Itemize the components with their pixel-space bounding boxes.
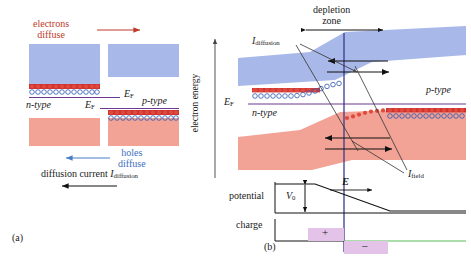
- conduction-band-b: [238, 26, 466, 86]
- panel-b-caption: (b): [264, 242, 276, 253]
- potential-plot-axes: [275, 182, 466, 213]
- electrons-diffuse-line2: diffuse: [37, 29, 65, 40]
- p-type-label-b: p-type: [426, 85, 451, 96]
- p-type-conduction-band-a: [108, 44, 179, 77]
- p-type-electron-row-a: [108, 110, 179, 115]
- charge-plot-axes: [275, 219, 466, 241]
- charge-axis-label: charge: [236, 220, 262, 231]
- fermi-label-b: EF: [224, 97, 234, 108]
- electron-energy-axis-label: electron energy: [191, 74, 201, 133]
- n-type-electron-row-a: [29, 84, 100, 89]
- i-field-label: Ifield: [408, 169, 424, 180]
- positive-charge-label: +: [322, 227, 328, 239]
- e-field-label: E: [342, 176, 349, 187]
- depletion-zone-line2: zone: [322, 15, 341, 26]
- diffusion-current-label: diffusion current Idiffusion: [41, 169, 138, 180]
- p-type-valence-band-a: [108, 118, 179, 146]
- n-type-label-a: n-type: [26, 100, 51, 111]
- n-side-electron-row-b: [252, 88, 320, 92]
- holes-diffuse-label: holes diffuse: [118, 148, 146, 169]
- n-type-label-b: n-type: [252, 108, 277, 119]
- fermi-label-n-a: EF: [124, 89, 134, 100]
- electrons-diffuse-label: electrons diffuse: [33, 19, 69, 40]
- n-type-conduction-band-a: [29, 44, 100, 84]
- fermi-label-p-a: EF: [85, 100, 95, 111]
- panel-a-graphic: [29, 30, 179, 186]
- i-diffusion-label: Idiffusion: [252, 36, 280, 47]
- pn-junction-figure: electrons diffuse holes diffuse n-type p…: [0, 0, 471, 264]
- electrons-diffuse-line1: electrons: [33, 18, 69, 29]
- p-type-label-a: p-type: [142, 96, 167, 107]
- holes-diffuse-line1: holes: [121, 147, 142, 158]
- negative-charge-label: –: [362, 240, 368, 252]
- potential-axis-label: potential: [229, 191, 264, 202]
- n-type-hole-row-a: [30, 90, 100, 95]
- panel-a-caption: (a): [12, 233, 23, 244]
- depletion-zone-label: depletion zone: [313, 5, 350, 26]
- n-type-valence-band-a: [29, 118, 100, 146]
- potential-curve: [275, 184, 466, 211]
- holes-diffuse-line2: diffuse: [118, 158, 146, 169]
- depletion-zone-line1: depletion: [313, 4, 350, 15]
- v0-label: V0: [286, 191, 296, 202]
- panel-b-graphic: [238, 26, 466, 254]
